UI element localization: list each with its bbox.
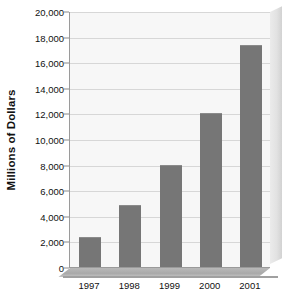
y-axis-tick-label: 14,000 xyxy=(22,83,64,94)
plot-area xyxy=(69,12,270,268)
bar-series xyxy=(70,12,270,267)
y-axis-tick-label: 4,000 xyxy=(22,211,64,222)
x-axis-tick-label: 1998 xyxy=(107,280,151,291)
x-axis-tick-labels: 19971998199920002001 xyxy=(69,280,270,298)
y-axis-tick-label: 0 xyxy=(22,263,64,274)
bar xyxy=(119,205,141,267)
x-axis-tick-label: 2001 xyxy=(228,280,272,291)
bar-chart: Millions of Dollars 20,00018,00016,00014… xyxy=(0,0,304,300)
y-axis-tick-label: 12,000 xyxy=(22,109,64,120)
x-axis-tick-label: 2000 xyxy=(188,280,232,291)
y-axis-tick-label: 16,000 xyxy=(22,58,64,69)
y-axis-title-text: Millions of Dollars xyxy=(5,90,17,191)
x-axis-tick-label: 1997 xyxy=(67,280,111,291)
x-axis-tick-label: 1999 xyxy=(148,280,192,291)
chart-3d-right-panel xyxy=(270,6,282,264)
y-axis-tick-label: 2,000 xyxy=(22,237,64,248)
y-axis-title: Millions of Dollars xyxy=(0,0,22,280)
bar xyxy=(79,237,101,267)
bar xyxy=(160,165,182,267)
bar xyxy=(240,45,262,267)
y-axis-tick-labels: 20,00018,00016,00014,00012,00010,0008,00… xyxy=(22,12,64,274)
y-axis-tick-label: 18,000 xyxy=(22,32,64,43)
y-axis-tick-label: 8,000 xyxy=(22,160,64,171)
bar xyxy=(200,113,222,267)
y-axis-tick-label: 20,000 xyxy=(22,7,64,18)
y-axis-tick-label: 10,000 xyxy=(22,135,64,146)
chart-3d-floor-edge xyxy=(63,276,278,278)
y-axis-tick-label: 6,000 xyxy=(22,186,64,197)
